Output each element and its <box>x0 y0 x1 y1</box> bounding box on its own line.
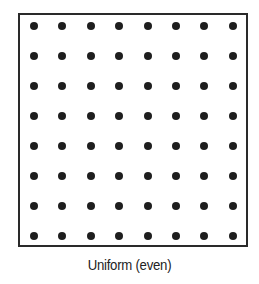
grid-dot <box>58 232 66 240</box>
grid-dot <box>229 202 237 210</box>
grid-dot <box>144 232 152 240</box>
grid-dot <box>58 82 66 90</box>
grid-dot <box>172 202 180 210</box>
grid-dot <box>30 202 38 210</box>
grid-dot <box>30 52 38 60</box>
grid-dot <box>172 22 180 30</box>
grid-dot <box>87 202 95 210</box>
grid-dot <box>172 52 180 60</box>
grid-dot <box>87 112 95 120</box>
grid-dot <box>200 202 208 210</box>
grid-dot <box>58 52 66 60</box>
grid-dot <box>200 142 208 150</box>
grid-dot <box>172 82 180 90</box>
grid-dot <box>87 172 95 180</box>
grid-dot <box>58 142 66 150</box>
grid-dot <box>115 52 123 60</box>
grid-dot <box>172 172 180 180</box>
grid-dot <box>200 232 208 240</box>
grid-dot <box>172 112 180 120</box>
grid-dot <box>30 112 38 120</box>
grid-dot <box>172 232 180 240</box>
grid-dot <box>200 82 208 90</box>
grid-dot <box>200 52 208 60</box>
grid-dot <box>30 172 38 180</box>
grid-dot <box>30 142 38 150</box>
grid-dot <box>30 232 38 240</box>
grid-dot <box>58 22 66 30</box>
grid-dot <box>144 22 152 30</box>
grid-dot <box>144 82 152 90</box>
grid-dot <box>144 172 152 180</box>
grid-dot <box>144 202 152 210</box>
grid-dot <box>115 202 123 210</box>
grid-dot <box>229 22 237 30</box>
grid-dot <box>144 52 152 60</box>
grid-dot <box>115 142 123 150</box>
grid-dot <box>87 142 95 150</box>
grid-dot <box>58 202 66 210</box>
grid-dot <box>87 22 95 30</box>
grid-dot <box>144 142 152 150</box>
grid-dot <box>115 112 123 120</box>
grid-dot <box>30 82 38 90</box>
grid-dot <box>115 172 123 180</box>
grid-dot <box>200 172 208 180</box>
grid-dot <box>144 112 152 120</box>
grid-dot <box>30 22 38 30</box>
grid-dot <box>115 22 123 30</box>
grid-dot <box>172 142 180 150</box>
grid-dot <box>58 112 66 120</box>
grid-dot <box>229 112 237 120</box>
grid-dot <box>229 52 237 60</box>
caption: Uniform (even) <box>16 256 244 273</box>
grid-dot <box>200 22 208 30</box>
grid-dot <box>115 82 123 90</box>
grid-dot <box>115 232 123 240</box>
grid-dot <box>87 52 95 60</box>
grid-dot <box>200 112 208 120</box>
grid-dot <box>229 232 237 240</box>
grid-dot <box>229 82 237 90</box>
grid-dot <box>229 142 237 150</box>
uniform-distribution-box <box>18 13 248 247</box>
grid-dot <box>58 172 66 180</box>
grid-dot <box>229 172 237 180</box>
grid-dot <box>87 82 95 90</box>
grid-dot <box>87 232 95 240</box>
